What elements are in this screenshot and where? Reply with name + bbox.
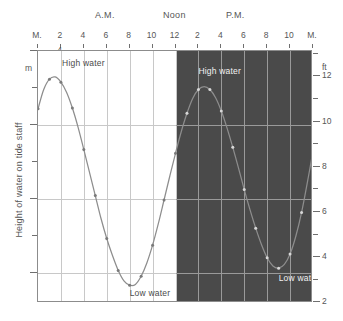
tide-data-point (94, 194, 97, 197)
tide-data-point (231, 146, 234, 149)
x-axis-tick-label: 4 (80, 30, 85, 40)
tide-data-point (277, 267, 280, 270)
tide-data-point (312, 150, 313, 153)
plot-area: High waterLow waterHigh waterLow water (37, 50, 312, 302)
x-axis-tick-label: M. (32, 30, 41, 40)
x-axis-tick (243, 44, 244, 48)
tide-data-point (82, 148, 85, 151)
y-axis-tick-ft (313, 166, 320, 167)
curve-annotation: High water (62, 58, 105, 68)
y-axis-minor-tick-ft (313, 234, 318, 235)
y-axis-tick (30, 272, 37, 273)
x-axis-tick-label: 10 (284, 30, 293, 40)
y-axis-minor-tick-ft (313, 98, 318, 99)
x-axis-tick-label: 8 (126, 30, 131, 40)
curve-annotation: Low water (279, 273, 312, 283)
y-axis-tick (30, 198, 37, 199)
period-label-pm: P.M. (226, 10, 245, 20)
x-axis-tick-label: 10 (147, 30, 156, 40)
tide-data-point (243, 188, 246, 191)
x-axis-tick (312, 44, 313, 48)
y-axis-minor-tick-ft (313, 279, 318, 280)
y-axis-tick-label-ft: 10 (322, 116, 331, 126)
y-axis-minor-tick-ft (313, 143, 318, 144)
tide-data-point (220, 110, 223, 113)
y-axis-tick-ft (313, 121, 320, 122)
tide-data-point (300, 211, 303, 214)
x-axis-tick (152, 44, 153, 48)
tide-data-point (208, 88, 211, 91)
x-axis-tick-label: 6 (103, 30, 108, 40)
tide-data-point (197, 88, 200, 91)
y-axis-tick-label-ft: 2 (322, 296, 327, 306)
period-label-am: A.M. (95, 10, 115, 20)
tide-data-point (71, 107, 74, 110)
y-axis-tick-ft (313, 301, 320, 302)
y-axis-tick (30, 124, 37, 125)
x-axis-tick (175, 44, 176, 48)
left-axis-unit: m (25, 63, 32, 73)
tide-data-point (105, 237, 108, 240)
tide-data-point (254, 227, 257, 230)
x-axis-tick-label: M. (307, 30, 316, 40)
tide-data-point (59, 81, 62, 84)
y-axis-tick-ft (313, 75, 320, 76)
tide-data-points (37, 78, 312, 287)
y-axis-tick (30, 50, 37, 51)
y-axis-tick-label-ft: 6 (322, 206, 327, 216)
period-label-noon: Noon (163, 10, 186, 20)
x-axis-tick (266, 44, 267, 48)
x-axis-tick-label: 8 (264, 30, 269, 40)
curve-annotation: High water (198, 66, 241, 76)
y-axis-tick-ft (313, 211, 320, 212)
x-axis-tick (129, 44, 130, 48)
tide-data-point (117, 269, 120, 272)
tide-data-point (37, 107, 40, 110)
y-axis-tick-label-ft: 8 (322, 161, 327, 171)
tide-data-point (140, 275, 143, 278)
y-axis-tick-label-ft: 4 (322, 251, 327, 261)
tide-curve-line (38, 77, 312, 286)
x-axis-tick-label: 2 (195, 30, 200, 40)
x-axis-tick-label: 12 (170, 30, 179, 40)
tide-data-point (185, 112, 188, 115)
tide-data-point (174, 152, 177, 155)
x-axis-tick (37, 44, 38, 48)
tide-data-point (163, 198, 166, 201)
x-axis-tick-label: 6 (241, 30, 246, 40)
x-axis-tick-label: 4 (218, 30, 223, 40)
tide-data-point (151, 244, 154, 247)
x-axis-tick (106, 44, 107, 48)
tide-chart: A.M. Noon P.M. m ft Height of water on t… (0, 0, 343, 321)
tide-data-point (48, 78, 51, 81)
tide-curve (38, 51, 312, 302)
tide-data-point (289, 253, 292, 256)
tide-data-point (266, 256, 269, 259)
y-axis-minor-tick-ft (313, 53, 318, 54)
y-axis-tick-ft (313, 256, 320, 257)
x-axis-tick (83, 44, 84, 48)
tide-data-point (128, 284, 131, 287)
y-axis-title: Height of water on tide staff (14, 85, 24, 275)
x-axis-tick (289, 44, 290, 48)
x-axis-tick (197, 44, 198, 48)
x-axis-tick-label: 2 (58, 30, 63, 40)
y-axis-minor-tick-ft (313, 188, 318, 189)
x-axis-tick (220, 44, 221, 48)
curve-annotation: Low water (130, 288, 171, 298)
y-axis-tick-label-ft: 12 (322, 70, 331, 80)
